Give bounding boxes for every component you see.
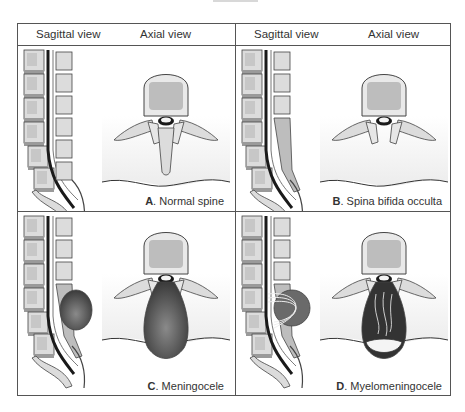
panel-b-illustration [236, 46, 452, 211]
posterior-element [56, 262, 72, 280]
panel-myelomeningocele: D. Myelomeningocele [236, 212, 452, 396]
panel-a-illustration [18, 46, 234, 211]
posterior-element [56, 240, 72, 258]
intervertebral-disc [242, 70, 262, 74]
intervertebral-disc [24, 308, 44, 312]
vertebral-body-core [245, 53, 255, 66]
panel-letter: C [148, 380, 156, 392]
sacrum [32, 190, 72, 211]
vertebral-body-core [37, 337, 47, 350]
sagittal-spine-illustration [242, 50, 303, 211]
sagittal-spine-illustration [24, 216, 92, 388]
spinal-cord-section [161, 118, 171, 123]
intervertebral-disc [242, 118, 262, 122]
vertebral-body-core [27, 101, 37, 114]
sacrum [250, 356, 290, 388]
intervertebral-disc [242, 308, 262, 312]
vertebral-body-core [255, 337, 265, 350]
vertebral-body-core [255, 171, 265, 184]
vertebral-body-core [245, 219, 255, 232]
header-sagittal-left: Sagittal view [36, 28, 101, 40]
posterior-element [274, 52, 290, 70]
header-axial-left: Axial view [140, 28, 191, 40]
vertebral-body-core [31, 149, 41, 162]
panel-normal-spine: A. Normal spine [18, 46, 234, 211]
panel-label: . Spina bifida occulta [340, 195, 442, 207]
intervertebral-disc [24, 118, 44, 122]
posterior-element [56, 74, 72, 92]
intervertebral-disc [24, 94, 44, 98]
vertebral-body-core [245, 243, 255, 256]
sacrum [32, 356, 72, 388]
panel-label: . Myelomeningocele [344, 380, 442, 392]
panel-label: . Meningocele [156, 380, 225, 392]
sagittal-spine-illustration [24, 50, 85, 211]
cancellous-bone [367, 240, 401, 268]
panel-caption: D. Myelomeningocele [336, 380, 442, 392]
vertebral-body-core [27, 291, 37, 304]
posterior-element [274, 218, 290, 236]
panel-caption: B. Spina bifida occulta [333, 195, 442, 207]
spinal-cord-section [161, 276, 171, 281]
intervertebral-disc [242, 236, 262, 240]
panel-letter: A [145, 195, 153, 207]
intervertebral-disc [24, 260, 44, 264]
intervertebral-disc [24, 70, 44, 74]
vertebral-body-core [27, 219, 37, 232]
intervertebral-disc [242, 94, 262, 98]
vertebral-body-core [249, 149, 259, 162]
vertebral-body-core [37, 171, 47, 184]
intervertebral-disc [242, 142, 262, 146]
vertebral-body-core [249, 315, 259, 328]
figure-frame: Sagittal view Axial view Sagittal view A… [17, 23, 451, 396]
sagittal-spine-illustration [242, 216, 310, 388]
posterior-element [274, 96, 290, 114]
panel-label: . Normal spine [153, 195, 224, 207]
cancellous-bone [367, 82, 401, 110]
panel-d-illustration [236, 212, 452, 396]
spinal-cord-section [379, 118, 389, 123]
panel-caption: C. Meningocele [148, 380, 224, 392]
vertebral-body-core [27, 53, 37, 66]
vertebral-body-core [31, 315, 41, 328]
axial-vertebra-illustration [102, 75, 230, 187]
posterior-element [56, 162, 72, 180]
panel-c-illustration [18, 212, 234, 396]
vertebral-body-core [27, 243, 37, 256]
header-sagittal-right: Sagittal view [254, 28, 319, 40]
panel-spina-bifida-occulta: B. Spina bifida occulta [236, 46, 452, 211]
panel-letter: D [336, 380, 344, 392]
top-mark [213, 0, 258, 2]
panel-meningocele: C. Meningocele [18, 212, 234, 396]
posterior-soft-tissue [274, 118, 300, 192]
posterior-element [56, 118, 72, 136]
intervertebral-disc [24, 142, 44, 146]
header-axial-right: Axial view [368, 28, 419, 40]
vertebral-body-core [27, 77, 37, 90]
sacrum [250, 190, 290, 211]
cancellous-bone [149, 82, 183, 110]
intervertebral-disc [24, 284, 44, 288]
posterior-element [274, 240, 290, 258]
vertebral-body-core [245, 125, 255, 138]
vertebral-body-core [245, 101, 255, 114]
posterior-element [274, 262, 290, 280]
posterior-element [56, 52, 72, 70]
posterior-element [274, 74, 290, 92]
vertebral-body-core [245, 291, 255, 304]
axial-vertebra-illustration [320, 75, 448, 187]
axial-vertebra-illustration [320, 233, 448, 359]
soft-tissue [320, 116, 448, 186]
cancellous-bone [149, 240, 183, 268]
vertebral-body-core [245, 77, 255, 90]
posterior-element [56, 140, 72, 158]
panel-caption: A. Normal spine [145, 195, 224, 207]
posterior-element [56, 96, 72, 114]
posterior-element [56, 218, 72, 236]
meningeal-sac [60, 290, 92, 330]
intervertebral-disc [24, 236, 44, 240]
vertebral-body-core [245, 267, 255, 280]
vertebral-body-core [27, 125, 37, 138]
intervertebral-disc [242, 260, 262, 264]
intervertebral-disc [242, 284, 262, 288]
